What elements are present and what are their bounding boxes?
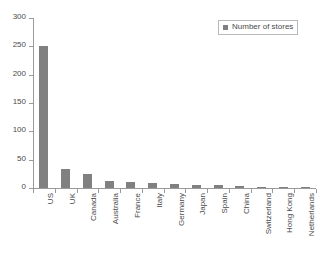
y-axis-tick-mark: 50 <box>29 160 33 161</box>
y-axis-tick-label: 200 <box>13 69 26 78</box>
bar <box>214 185 223 188</box>
y-axis-tick-mark: 200 <box>29 75 33 76</box>
y-axis-tick-label: 0 <box>22 182 26 191</box>
x-axis-category-label: US <box>47 193 55 204</box>
bar <box>148 183 157 188</box>
bar <box>61 169 70 188</box>
bar <box>235 186 244 188</box>
y-axis-tick-mark: 100 <box>29 131 33 132</box>
x-axis-line <box>33 188 316 189</box>
y-axis-tick-label: 300 <box>13 12 26 21</box>
x-axis-category-label: Canada <box>90 193 98 221</box>
bars-layer <box>33 18 316 188</box>
bar-chart: Number of stores 050100150200250300 USUK… <box>0 0 324 267</box>
bar <box>126 182 135 188</box>
x-axis-labels: USUKCanadaAustraliaFranceItalyGermanyJap… <box>33 193 316 267</box>
plot-area: 050100150200250300 <box>33 18 316 188</box>
x-axis-category-label: China <box>243 193 251 214</box>
x-axis-category-label: Australia <box>112 193 120 224</box>
bar <box>301 187 310 188</box>
bar <box>170 184 179 188</box>
y-axis-tick-mark: 250 <box>29 46 33 47</box>
x-axis-tick-mark <box>316 189 317 193</box>
x-axis-category-label: Hong Kong <box>286 193 294 233</box>
x-axis-category-label: Italy <box>156 193 164 208</box>
x-axis-category-label: France <box>134 193 142 218</box>
bar <box>192 185 201 188</box>
bar <box>279 187 288 188</box>
y-axis-tick-label: 150 <box>13 97 26 106</box>
y-axis-tick-mark: 150 <box>29 103 33 104</box>
x-axis-category-label: Netherlands <box>308 193 316 236</box>
y-axis-tick-label: 50 <box>17 154 26 163</box>
bar <box>257 187 266 188</box>
x-axis-category-label: UK <box>69 193 77 204</box>
bar <box>83 174 92 188</box>
x-axis-category-label: Spain <box>221 193 229 213</box>
bar <box>105 181 114 188</box>
x-axis-category-label: Japan <box>199 193 207 215</box>
x-axis-category-label: Germany <box>178 193 186 226</box>
y-axis-tick-label: 100 <box>13 125 26 134</box>
x-axis-category-label: Switzerland <box>265 193 273 234</box>
y-axis-tick-label: 250 <box>13 40 26 49</box>
y-axis-tick-mark: 300 <box>29 18 33 19</box>
bar <box>39 46 48 188</box>
